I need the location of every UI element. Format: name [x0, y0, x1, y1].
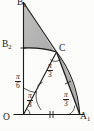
angle-label-C: π 3 [47, 62, 53, 79]
angle-label-O-lower: π 3 [27, 92, 33, 109]
point-label-C: C [59, 44, 65, 54]
point-label-B1: B1 [17, 0, 27, 8]
point-label-O: O [3, 113, 10, 123]
angle-label-O-upper: π 6 [15, 73, 21, 90]
angle-arc-O-base [27, 109, 30, 115]
geometry-figure: B1 B2 C O A1 π 6 π 3 π 3 π 3 [0, 0, 94, 131]
angle-label-A1: π 3 [63, 91, 69, 108]
point-label-A1: A1 [80, 112, 90, 122]
angle-arc-A1 [69, 106, 75, 115]
angle-arc-O-lower [36, 91, 41, 110]
point-label-B2: B2 [2, 40, 12, 50]
